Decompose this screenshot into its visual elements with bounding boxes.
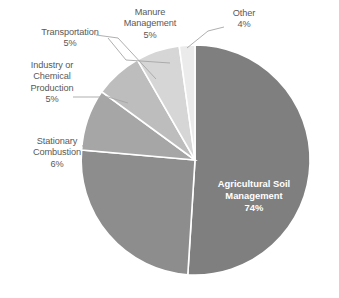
slice-label-stationary-line1: Stationary xyxy=(37,136,77,146)
slice-label-agricultural-line2: Management xyxy=(225,190,282,201)
slice-label-stationary-combustion: Stationary Combustion 6% xyxy=(6,136,108,170)
slice-label-industry-line2: Chemical xyxy=(33,71,71,81)
slice-label-industry-or-chemical-production: Industry or Chemical Production 5% xyxy=(6,60,98,106)
slice-label-stationary-percent: 6% xyxy=(6,159,108,170)
slice-label-transportation: Transportation 5% xyxy=(24,27,116,50)
slice-label-transportation-percent: 5% xyxy=(24,38,116,49)
slice-label-agricultural-soil-management: Agricultural Soil Management 74% xyxy=(200,178,308,215)
slice-label-industry-percent: 5% xyxy=(6,94,98,105)
slice-label-industry-line1: Industry or xyxy=(31,60,73,70)
slice-label-manure-management-percent: 5% xyxy=(104,30,196,41)
slice-label-other-percent: 4% xyxy=(208,19,280,30)
slice-label-agricultural-percent: 74% xyxy=(200,202,308,214)
slice-label-manure-management: Manure Management 5% xyxy=(104,7,196,41)
slice-label-manure-management-line1: Manure xyxy=(135,7,166,17)
pie-chart: Transportation 5% Manure Management 5% O… xyxy=(0,0,339,298)
slice-label-agricultural-line1: Agricultural Soil xyxy=(218,178,290,189)
slice-label-transportation-name: Transportation xyxy=(41,27,99,37)
slice-label-other-name: Other xyxy=(233,8,255,18)
slice-label-manure-management-line2: Management xyxy=(124,18,177,28)
slice-label-industry-line3: Production xyxy=(31,83,74,93)
slice-label-stationary-line2: Combustion xyxy=(33,147,81,157)
slice-label-other: Other 4% xyxy=(208,8,280,31)
pie-slice-agricultural-soil-management[interactable] xyxy=(188,45,310,275)
